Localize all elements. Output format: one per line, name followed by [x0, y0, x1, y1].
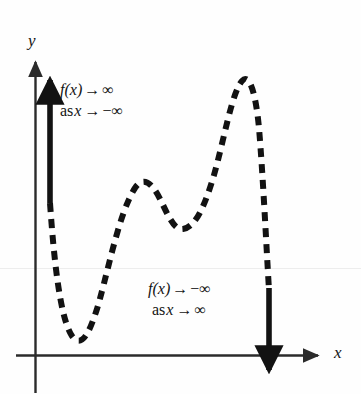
- left-limit-as-word: as: [60, 102, 73, 119]
- right-limit-value-2: ∞: [194, 301, 205, 318]
- left-limit-annotation: f(x)→∞ asx→−∞: [60, 79, 123, 121]
- right-limit-line-2: asx→∞: [148, 299, 211, 320]
- right-limit-arrow-1: →: [170, 280, 190, 297]
- right-limit-line-1: f(x)→−∞: [148, 278, 211, 299]
- left-limit-function: f(x): [60, 81, 82, 98]
- figure-container: y x f(x)→∞ asx→−∞ f(x)→−∞ asx→∞: [0, 0, 361, 394]
- left-limit-arrow-1: →: [82, 81, 102, 98]
- left-limit-arrow-2: →: [82, 102, 102, 119]
- right-limit-function: f(x): [148, 280, 170, 297]
- graph-canvas: [0, 0, 361, 394]
- right-limit-as-word: as: [152, 301, 165, 318]
- y-axis-label: y: [28, 32, 36, 49]
- left-limit-value-2: −∞: [102, 102, 122, 119]
- right-limit-value-1: −∞: [190, 280, 210, 297]
- left-limit-value-1: ∞: [102, 81, 113, 98]
- left-limit-line-1: f(x)→∞: [60, 79, 123, 100]
- right-limit-annotation: f(x)→−∞ asx→∞: [148, 278, 211, 320]
- left-limit-line-2: asx→−∞: [60, 100, 123, 121]
- right-limit-arrow-2: →: [174, 301, 194, 318]
- x-axis-label: x: [334, 344, 342, 361]
